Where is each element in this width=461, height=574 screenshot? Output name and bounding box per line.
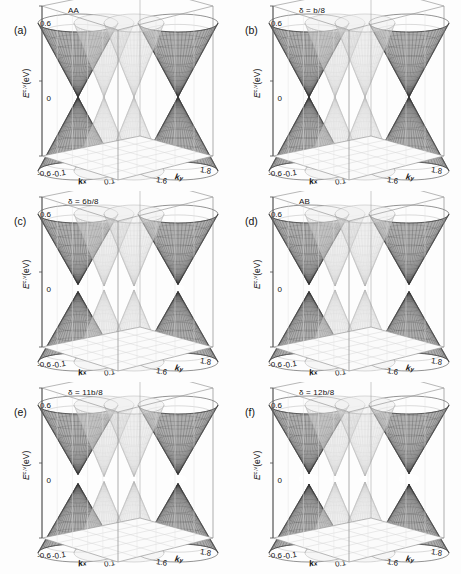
- panel-a-axes-box: [0, 0, 230, 191]
- panel-b-axes-box: [231, 0, 461, 191]
- panel-e: δ = 11b/8 (e) Ec,v(eV) 0.6 0 -0.6 -0.1 0…: [0, 382, 230, 573]
- panel-b: δ = b/8 (b) Ec,v(eV) 0.6 0 -0.6 -0.1 0.1…: [231, 0, 461, 191]
- panel-c: δ = 6b/8 (c) Ec,v(eV) 0.6 0 -0.6 -0.1 0.…: [0, 191, 230, 382]
- panel-f: δ = 12b/8 (f) Ec,v(eV) 0.6 0 -0.6 -0.1 0…: [231, 382, 461, 573]
- figure-canvas: AA (a) Ec,v(eV) 0.6 0 -0.6 -0.1 0.1 1.6 …: [0, 0, 461, 574]
- panel-a: AA (a) Ec,v(eV) 0.6 0 -0.6 -0.1 0.1 1.6 …: [0, 0, 230, 191]
- panel-e-axes-box: [0, 382, 230, 573]
- panel-f-axes-box: [231, 382, 461, 573]
- panel-c-axes-box: [0, 191, 230, 382]
- panel-d-axes-box: [231, 191, 461, 382]
- panel-d: AB (d) Ec,v(eV) 0.6 0 -0.6 -0.1 0.1 1.6 …: [231, 191, 461, 382]
